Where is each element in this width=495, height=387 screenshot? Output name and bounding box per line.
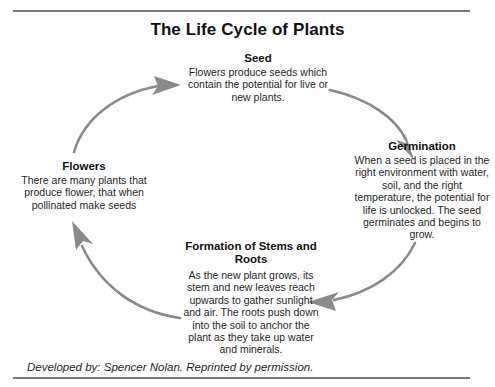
cycle-node-seed: Seed Flowers produce seeds which contain… xyxy=(183,52,333,103)
cycle-node-germination-title: Germination xyxy=(352,140,492,153)
cycle-node-formation-body: As the new plant grows, its stem and new… xyxy=(180,269,322,356)
cycle-node-germination-body: When a seed is placed in the right envir… xyxy=(352,154,492,241)
cycle-node-formation-title: Formation of Stems and Roots xyxy=(180,240,322,266)
arc-arrow-germination-to-formation xyxy=(308,243,415,311)
cycle-node-seed-title: Seed xyxy=(183,52,333,65)
cycle-node-formation: Formation of Stems and Roots As the new … xyxy=(180,240,322,356)
bottom-divider-rule xyxy=(13,377,470,379)
cycle-node-flowers-body: There are many plants that produce flowe… xyxy=(8,174,160,211)
arc-arrow-flowers-to-seed xyxy=(74,76,181,152)
cycle-node-germination: Germination When a seed is placed in the… xyxy=(352,140,492,241)
credit-line: Developed by: Spencer Nolan. Reprinted b… xyxy=(27,361,313,373)
life-cycle-diagram-page: The Life Cycle of Plants Seed Flowers pr… xyxy=(0,0,495,387)
arc-arrow-formation-to-flowers xyxy=(72,221,180,318)
cycle-node-flowers: Flowers There are many plants that produ… xyxy=(8,160,160,211)
cycle-node-flowers-title: Flowers xyxy=(8,160,160,173)
cycle-node-seed-body: Flowers produce seeds which contain the … xyxy=(183,66,333,103)
